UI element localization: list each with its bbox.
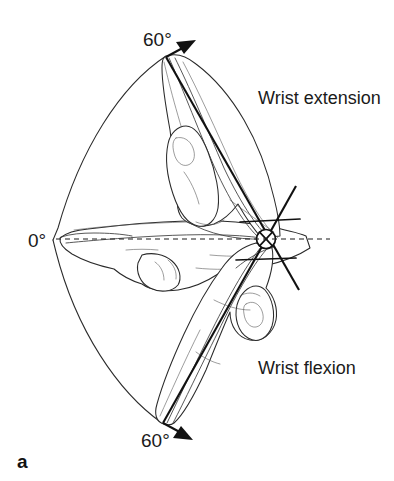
wrist-flexion-label: Wrist flexion <box>258 358 356 378</box>
extension-angle-label: 60° <box>143 29 172 50</box>
hand-flexion-thumb <box>236 286 274 340</box>
wrist-extension-label: Wrist extension <box>258 88 381 108</box>
motion-arc-extension <box>53 56 166 240</box>
wrist-range-of-motion-illustration: 60° 0° 60° Wrist extension Wrist flexion… <box>0 0 394 481</box>
arrow-tip-flexion <box>173 426 193 440</box>
neutral-angle-label: 0° <box>28 230 46 251</box>
panel-label: a <box>17 451 28 472</box>
wrist-motion-figure: 60° 0° 60° Wrist extension Wrist flexion… <box>0 0 394 481</box>
arrow-tip-extension <box>176 40 196 54</box>
flexion-angle-label: 60° <box>141 430 170 451</box>
